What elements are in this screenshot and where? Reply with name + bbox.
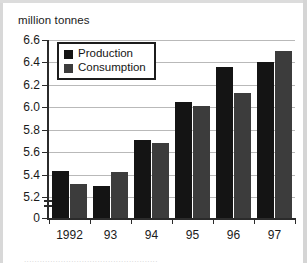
bar-consumption-95: [193, 106, 210, 218]
bar-production-96: [216, 67, 233, 218]
bar-consumption-93: [111, 172, 128, 218]
x-tick-label-1992: 1992: [56, 228, 83, 242]
x-tick-label-94: 94: [145, 228, 158, 242]
x-tick-label-93: 93: [104, 228, 117, 242]
y-tick-label: 0: [33, 211, 40, 225]
x-tick-mark: [49, 218, 50, 224]
y-tick-label: 6.2: [23, 78, 40, 92]
bar-production-1992: [52, 171, 69, 218]
bar-production-97: [257, 62, 274, 218]
x-tick-mark: [131, 218, 132, 224]
bar-production-95: [175, 102, 192, 218]
y-tick-mark: [42, 197, 47, 198]
y-tick-mark: [42, 85, 47, 86]
y-tick-mark: [42, 40, 47, 41]
legend-swatch-production: [64, 50, 73, 59]
y-tick-label: 5.4: [23, 168, 40, 182]
x-tick-label-97: 97: [268, 228, 281, 242]
y-tick-mark: [42, 62, 47, 63]
y-tick-label: 5.6: [23, 145, 40, 159]
page-border-top: [0, 0, 307, 3]
x-tick-mark: [172, 218, 173, 224]
y-tick-mark: [42, 218, 47, 219]
legend-label-consumption: Consumption: [78, 62, 146, 74]
y-tick-mark: [42, 130, 47, 131]
x-tick-label-96: 96: [227, 228, 240, 242]
bar-consumption-94: [152, 143, 169, 218]
x-axis-line: [47, 218, 295, 220]
x-tick-mark: [295, 218, 296, 224]
legend-swatch-consumption: [64, 64, 73, 73]
chart-page: million tonnes 6.66.46.26.05.85.65.45.20…: [0, 0, 307, 263]
bar-group: [257, 40, 292, 218]
legend-item-production: Production: [64, 47, 146, 61]
page-caption-cutoff: ........................................…: [24, 255, 282, 262]
y-tick-label: 6.4: [23, 55, 40, 69]
legend-label-production: Production: [78, 48, 133, 60]
bar-group: [175, 40, 210, 218]
x-tick-mark: [213, 218, 214, 224]
legend-item-consumption: Consumption: [64, 61, 146, 75]
bar-group: [216, 40, 251, 218]
page-border-right: [303, 0, 307, 263]
x-tick-label-95: 95: [186, 228, 199, 242]
bar-consumption-96: [234, 93, 251, 218]
x-tick-mark: [90, 218, 91, 224]
x-tick-mark: [254, 218, 255, 224]
y-tick-label: 5.2: [23, 190, 40, 204]
y-tick-label: 5.8: [23, 123, 40, 137]
y-tick-mark: [42, 152, 47, 153]
y-tick-mark: [42, 175, 47, 176]
y-tick-label: 6.0: [23, 100, 40, 114]
y-tick-mark: [42, 107, 47, 108]
bar-consumption-1992: [70, 184, 87, 218]
y-tick-label: 6.6: [23, 33, 40, 47]
bar-consumption-97: [275, 51, 292, 218]
y-axis-title: million tonnes: [18, 14, 90, 26]
chart-legend: Production Consumption: [57, 42, 156, 80]
bar-production-94: [134, 140, 151, 218]
page-border-left: [0, 0, 3, 263]
bar-production-93: [93, 186, 110, 218]
